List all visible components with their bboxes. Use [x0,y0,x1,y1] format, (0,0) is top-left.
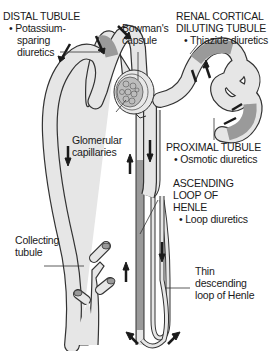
ascending-bullet: • Loop diuretics [173,213,248,225]
distal-tubule-label: DISTAL TUBULE • Potassium- sparing diure… [3,10,80,58]
distal-tubule-line3: diuretics [3,46,80,58]
thin-line3: loop of Henle [195,289,254,301]
proximal-bullet: • Osmotic diuretics [166,153,261,165]
glomerular-capillaries-label: Glomerular capillaries [72,134,122,158]
ascending-line1: ASCENDING [173,177,248,189]
proximal-heading: PROXIMAL TUBULE [166,141,261,153]
renal-cortical-label: RENAL CORTICAL DILUTING TUBULE • Thiazid… [176,10,268,46]
ascending-line3: HENLE [173,201,248,213]
distal-tubule-bullet: • Potassium- [3,22,80,34]
thin-line2: descending [195,277,254,289]
thin-descending-label: Thin descending loop of Henle [195,265,254,301]
bowmans-line2: capsule [122,34,169,46]
glomerular-line2: capillaries [72,146,122,158]
thin-line1: Thin [195,265,254,277]
bowmans-line1: Bowman's [122,22,169,34]
collecting-tubule-label: Collecting tubule [15,234,59,258]
glomerular-line1: Glomerular [72,134,122,146]
distal-tubule-line2: sparing [3,34,80,46]
proximal-tubule-label: PROXIMAL TUBULE • Osmotic diuretics [166,141,261,165]
renal-cortical-bullet: • Thiazide diuretics [176,34,268,46]
distal-tubule-heading: DISTAL TUBULE [3,10,80,22]
collecting-line2: tubule [15,246,59,258]
ascending-loop-label: ASCENDING LOOP OF HENLE • Loop diuretics [173,177,248,225]
collecting-line1: Collecting [15,234,59,246]
bowmans-capsule-label: Bowman's capsule [122,22,169,46]
ascending-line2: LOOP OF [173,189,248,201]
renal-cortical-line1: RENAL CORTICAL [176,10,268,22]
renal-cortical-line2: DILUTING TUBULE [176,22,268,34]
